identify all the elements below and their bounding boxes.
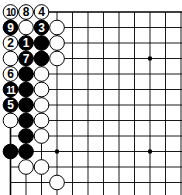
move-number: 7 — [23, 52, 30, 66]
white-stone — [34, 67, 49, 82]
move-number: 6 — [7, 67, 14, 81]
white-stone — [34, 160, 49, 175]
white-stone — [50, 20, 65, 35]
move-number: 9 — [7, 21, 14, 35]
white-stone — [34, 98, 49, 113]
black-stone: 3 — [34, 20, 49, 35]
black-stone — [3, 144, 18, 159]
white-stone — [50, 175, 65, 190]
white-stone — [34, 82, 49, 97]
black-stone — [19, 98, 34, 113]
black-stone — [19, 82, 34, 97]
white-stone: 6 — [3, 67, 18, 82]
move-number: 10 — [6, 7, 17, 18]
black-stone: 1 — [19, 36, 34, 51]
black-stone — [34, 51, 49, 66]
white-stone: 10 — [3, 5, 18, 20]
black-stone: 9 — [3, 20, 18, 35]
white-stone — [34, 113, 49, 128]
move-number: 5 — [7, 98, 14, 112]
white-stone: 2 — [3, 36, 18, 51]
black-stone — [19, 67, 34, 82]
black-stone: 11 — [3, 82, 18, 97]
star-point — [148, 149, 152, 153]
black-stone — [19, 113, 34, 128]
white-stone: 4 — [34, 5, 49, 20]
stones: 1084932176115 — [3, 5, 64, 190]
white-stone — [3, 51, 18, 66]
move-number: 2 — [7, 36, 14, 50]
white-stone — [50, 51, 65, 66]
go-board: 1084932176115 — [0, 0, 182, 195]
white-stone: 8 — [19, 5, 34, 20]
star-point — [148, 56, 152, 60]
move-number: 4 — [38, 5, 45, 19]
star-point — [55, 149, 59, 153]
black-stone — [34, 36, 49, 51]
black-stone: 7 — [19, 51, 34, 66]
white-stone — [19, 160, 34, 175]
black-stone — [19, 129, 34, 144]
white-stone — [34, 129, 49, 144]
move-number: 11 — [6, 85, 16, 96]
white-stone — [19, 20, 34, 35]
black-stone: 5 — [3, 98, 18, 113]
move-number: 1 — [23, 36, 30, 50]
white-stone — [3, 113, 18, 128]
move-number: 8 — [23, 5, 30, 19]
black-stone — [19, 144, 34, 159]
white-stone — [50, 36, 65, 51]
move-number: 3 — [38, 21, 45, 35]
